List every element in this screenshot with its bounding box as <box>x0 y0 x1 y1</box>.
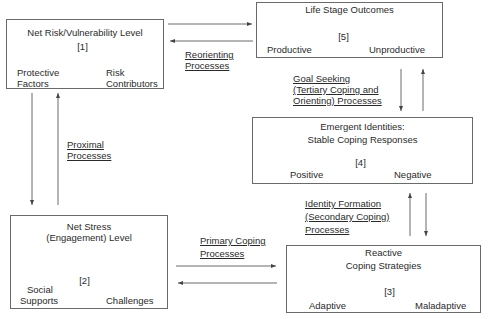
protective-factors-line1: Protective <box>17 67 59 78</box>
reactive-title-line1: Reactive <box>286 247 481 258</box>
emergent-title-line2: Stable Coping Responses <box>252 134 473 145</box>
net-stress-number: [2] <box>72 275 97 286</box>
challenges-label: Challenges <box>106 295 154 306</box>
identity-formation-line1: Identity Formation <box>305 198 381 209</box>
adaptive-label: Adaptive <box>309 300 346 311</box>
risk-contributors-line1: Risk <box>106 67 124 78</box>
risk-contributors-line2: Contributors <box>106 78 158 89</box>
unproductive-label: Unproductive <box>369 44 425 55</box>
net-stress-title-line2: (Engagement) Level <box>10 232 168 243</box>
reorienting-processes-line1: Reorienting <box>185 49 234 60</box>
goal-seeking-line3: Orienting) Processes <box>293 95 382 106</box>
goal-seeking-line1: Goal Seeking <box>293 73 350 84</box>
maladaptive-label: Maladaptive <box>415 300 466 311</box>
primary-coping-line1: Primary Coping <box>200 235 265 246</box>
life-stage-title: Life Stage Outcomes <box>256 4 443 15</box>
protective-factors-line2: Factors <box>17 78 49 89</box>
goal-seeking-line2: (Tertiary Coping and <box>293 84 379 95</box>
net-risk-number: [1] <box>70 41 95 52</box>
net-risk-title: Net Risk/Vulnerability Level <box>6 27 164 38</box>
reactive-number: [3] <box>377 286 402 297</box>
negative-label: Negative <box>394 169 432 180</box>
proximal-processes-line2: Processes <box>67 150 111 161</box>
reorienting-processes-line2: Processes <box>185 60 229 71</box>
social-supports-line1: Social <box>27 284 53 295</box>
proximal-processes-line1: Proximal <box>67 139 104 150</box>
primary-coping-line2: Processes <box>200 248 244 259</box>
reactive-title-line2: Coping Strategies <box>286 260 481 271</box>
life-stage-number: [5] <box>331 31 356 42</box>
identity-formation-line3: Processes <box>305 224 349 235</box>
emergent-title-line1: Emergent Identities: <box>252 121 473 132</box>
positive-label: Positive <box>290 169 323 180</box>
social-supports-line2: Supports <box>20 295 58 306</box>
productive-label: Productive <box>267 44 312 55</box>
emergent-number: [4] <box>348 157 373 168</box>
identity-formation-line2: (Secondary Coping) <box>305 211 390 222</box>
net-stress-title-line1: Net Stress <box>10 221 168 232</box>
